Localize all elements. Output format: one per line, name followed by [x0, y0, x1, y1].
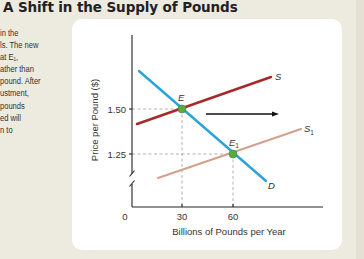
- e1-subscript: 1: [235, 142, 239, 149]
- axes: [129, 35, 323, 207]
- equilibrium-point-e: [178, 105, 186, 113]
- shift-arrow-icon: [206, 112, 279, 117]
- supply-label-s: S: [275, 71, 282, 82]
- s1-subscript: 1: [310, 129, 314, 136]
- y-tick-label-150: 1.50: [108, 104, 127, 115]
- x-tick-label-60: 60: [228, 211, 239, 222]
- supply-curve-s: [137, 77, 271, 124]
- point-label-e: E: [178, 92, 185, 103]
- x-tick-label-0: 0: [122, 211, 127, 222]
- supply-demand-chart: S S1 D E E1 1.50 1.25 0 30 60 Billions o…: [0, 0, 364, 259]
- y-axis-title: Price per Pound ($): [89, 79, 100, 161]
- demand-curve-d: [139, 71, 266, 181]
- equilibrium-point-e1: [229, 150, 237, 158]
- demand-label-d: D: [268, 180, 275, 191]
- x-axis-title: Billions of Pounds per Year: [172, 226, 286, 237]
- x-tick-label-30: 30: [177, 211, 188, 222]
- y-tick-label-125: 1.25: [108, 149, 127, 160]
- point-label-e1: E1: [229, 137, 239, 149]
- shifted-supply-label-s1: S1: [304, 123, 314, 136]
